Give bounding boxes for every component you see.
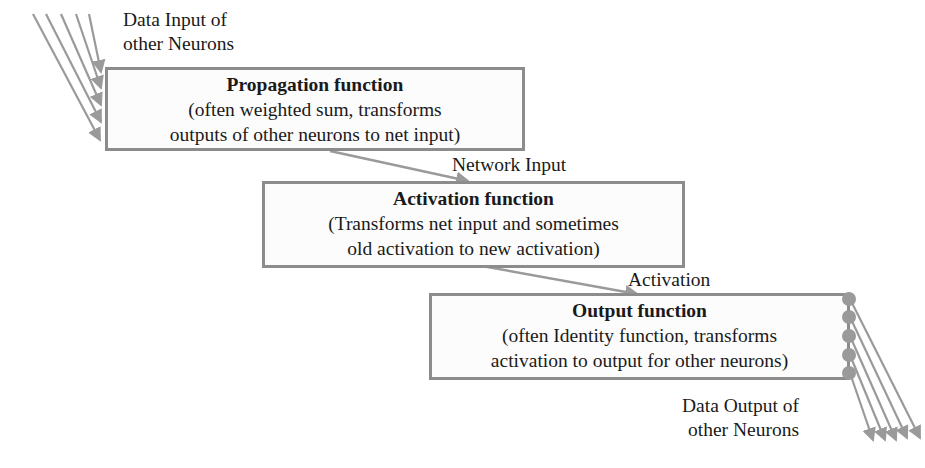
data-output-label-line1: Data Output of bbox=[682, 395, 799, 416]
output-node-icon bbox=[842, 366, 856, 380]
output-node-icon bbox=[842, 292, 856, 306]
neuron-data-flow-diagram: Data Input of other Neurons Propagation … bbox=[0, 0, 925, 468]
output-node-icon bbox=[842, 329, 856, 343]
output-node-icon bbox=[842, 348, 856, 362]
data-output-label: Data Output of other Neurons bbox=[682, 394, 799, 442]
data-output-label-line2: other Neurons bbox=[684, 419, 799, 440]
output-node-icon bbox=[842, 310, 856, 324]
